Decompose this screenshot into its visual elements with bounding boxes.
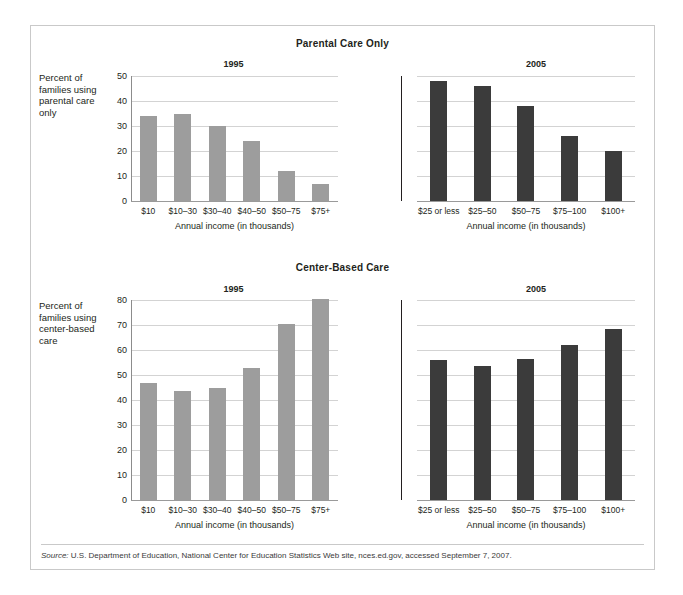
- bar-slot: [417, 76, 461, 201]
- bar: [561, 345, 578, 500]
- bar-slot: [417, 300, 461, 500]
- bar: [517, 106, 534, 201]
- y-tick-label-0: 0: [122, 496, 127, 505]
- bar: [209, 388, 226, 501]
- x-tick-label: $100+: [591, 505, 635, 515]
- y-axis-caption-parental: Percent of families using parental care …: [39, 72, 97, 118]
- x-tick-label: $25–50: [461, 505, 505, 515]
- y-tick-label-70: 70: [117, 321, 127, 330]
- bar: [430, 81, 447, 201]
- bar-slot: [304, 76, 339, 201]
- bar-slot: [591, 300, 635, 500]
- bar-slot: [200, 76, 235, 201]
- x-tick-label: $50–75: [269, 505, 304, 515]
- y-tick-label-80: 80: [117, 296, 127, 305]
- x-tick-label: $50–75: [504, 206, 548, 216]
- bar: [517, 359, 534, 500]
- year-heading-1995-parental: 1995: [126, 59, 341, 69]
- bar-slot: [461, 76, 505, 201]
- bar: [430, 360, 447, 500]
- bar-slot: [461, 300, 505, 500]
- y-tick-label-10: 10: [117, 172, 127, 181]
- x-tick-labels-parental-2005: $25 or less$25–50$50–75$75–100$100+: [417, 201, 635, 216]
- y-tick-label-30: 30: [117, 421, 127, 430]
- y-tick-label-10: 10: [117, 471, 127, 480]
- bar: [561, 136, 578, 201]
- y-tick-label-20: 20: [117, 446, 127, 455]
- figure-frame: Parental Care Only Percent of families u…: [30, 25, 655, 570]
- bar: [140, 383, 157, 501]
- year-heading-2005-parental: 2005: [431, 59, 641, 69]
- bar-slot: [504, 300, 548, 500]
- chart-title-center-based-care: Center-Based Care: [31, 258, 654, 273]
- source-divider: [41, 544, 644, 545]
- y-tick-label-60: 60: [117, 346, 127, 355]
- bar-slot: [131, 76, 166, 201]
- y-tick-label-30: 30: [117, 122, 127, 131]
- bar: [278, 171, 295, 201]
- bar: [474, 86, 491, 201]
- x-axis-title-parental-2005: Annual income (in thousands): [417, 221, 635, 231]
- x-tick-label: $40–50: [235, 505, 270, 515]
- bar: [605, 329, 622, 500]
- x-tick-label: $50–75: [269, 206, 304, 216]
- x-tick-label: $40–50: [235, 206, 270, 216]
- panel-divider-parental: [401, 76, 402, 201]
- y-tick-label-40: 40: [117, 97, 127, 106]
- x-tick-labels-parental-1995: $10$10–30$30–40$40–50$50–75$75+: [131, 201, 338, 216]
- bar: [209, 126, 226, 201]
- bar-slot: [591, 76, 635, 201]
- x-tick-label: $10–30: [166, 505, 201, 515]
- x-tick-labels-center-2005: $25 or less$25–50$50–75$75–100$100+: [417, 500, 635, 515]
- bar-slot: [304, 300, 339, 500]
- source-label: Source:: [41, 551, 69, 560]
- plot-area-parental-2005: $25 or less$25–50$50–75$75–100$100+ Annu…: [417, 76, 635, 201]
- chart-center-based-care: Center-Based Care Percent of families us…: [31, 258, 654, 536]
- x-tick-label: $75–100: [548, 505, 592, 515]
- bar: [140, 116, 157, 201]
- chart-title-parental-care: Parental Care Only: [31, 34, 654, 49]
- bar: [278, 324, 295, 500]
- bar-slot: [166, 300, 201, 500]
- bar: [243, 368, 260, 501]
- x-tick-label: $25 or less: [417, 505, 461, 515]
- y-tick-label-50: 50: [117, 72, 127, 81]
- bar: [312, 299, 329, 500]
- plot-area-center-2005: $25 or less$25–50$50–75$75–100$100+ Annu…: [417, 300, 635, 500]
- y-tick-label-20: 20: [117, 147, 127, 156]
- panel-divider-center: [401, 300, 402, 500]
- bar-slot: [269, 76, 304, 201]
- bar: [174, 114, 191, 202]
- x-tick-label: $25 or less: [417, 206, 461, 216]
- bar-slot: [548, 76, 592, 201]
- plot-area-center-1995: 01020304050607080 $10$10–30$30–40$40–50$…: [131, 300, 338, 500]
- bar-slot: [131, 300, 166, 500]
- x-tick-label: $10: [131, 206, 166, 216]
- x-tick-label: $75+: [304, 206, 339, 216]
- bar: [312, 184, 329, 202]
- year-heading-2005-center: 2005: [431, 284, 641, 294]
- x-tick-label: $30–40: [200, 206, 235, 216]
- y-tick-label-50: 50: [117, 371, 127, 380]
- x-axis-title-parental-1995: Annual income (in thousands): [131, 221, 338, 231]
- x-tick-label: $10–30: [166, 206, 201, 216]
- x-tick-label: $100+: [591, 206, 635, 216]
- bar-slot: [235, 76, 270, 201]
- bar-slot: [235, 300, 270, 500]
- plot-area-parental-1995: 01020304050 $10$10–30$30–40$40–50$50–75$…: [131, 76, 338, 201]
- x-tick-label: $50–75: [504, 505, 548, 515]
- x-axis-title-center-2005: Annual income (in thousands): [417, 520, 635, 530]
- bar-group-parental-1995: [131, 76, 338, 201]
- bar: [243, 141, 260, 201]
- bar: [474, 366, 491, 500]
- y-tick-label-0: 0: [122, 197, 127, 206]
- x-tick-label: $75+: [304, 505, 339, 515]
- chart-parental-care-only: Parental Care Only Percent of families u…: [31, 34, 654, 259]
- x-axis-title-center-1995: Annual income (in thousands): [131, 520, 338, 530]
- bar-group-center-1995: [131, 300, 338, 500]
- source-text: U.S. Department of Education, National C…: [69, 551, 512, 560]
- x-tick-label: $10: [131, 505, 166, 515]
- bar-group-parental-2005: [417, 76, 635, 201]
- y-tick-label-40: 40: [117, 396, 127, 405]
- y-axis-caption-center: Percent of families using center-based c…: [39, 300, 97, 346]
